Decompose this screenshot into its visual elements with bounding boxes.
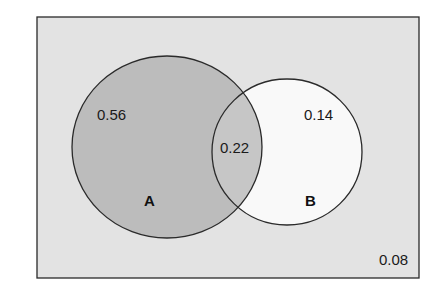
b-only-value: 0.14 [304,106,333,123]
neither-value: 0.08 [379,251,408,268]
venn-diagram: 0.56 0.14 0.22 0.08 A B [0,0,434,297]
intersection-value: 0.22 [220,139,249,156]
set-a-label: A [144,192,155,209]
set-b-label: B [305,192,316,209]
a-only-value: 0.56 [97,106,126,123]
